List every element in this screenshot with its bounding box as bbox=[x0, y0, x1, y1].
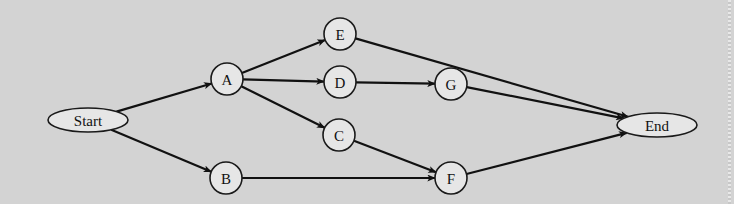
node-label-end: End bbox=[645, 118, 670, 134]
edge-f-to-end bbox=[466, 133, 626, 174]
node-b: B bbox=[210, 162, 242, 194]
edge-c-to-f bbox=[354, 141, 436, 173]
node-label-c: C bbox=[334, 128, 344, 144]
page-edge-divider bbox=[728, 0, 731, 204]
node-label-d: D bbox=[335, 75, 346, 91]
edge-a-to-d bbox=[243, 79, 324, 81]
node-c: C bbox=[323, 119, 355, 151]
node-d: D bbox=[324, 66, 356, 98]
node-label-start: Start bbox=[74, 113, 103, 129]
diagram-canvas: StartABEDCGFEnd bbox=[0, 0, 734, 204]
node-a: A bbox=[211, 63, 243, 95]
edges-layer bbox=[111, 38, 628, 178]
edge-d-to-g bbox=[356, 82, 435, 83]
edge-e-to-end bbox=[355, 38, 628, 116]
node-f: F bbox=[435, 162, 467, 194]
node-start: Start bbox=[48, 108, 128, 132]
node-label-b: B bbox=[221, 171, 231, 187]
node-label-f: F bbox=[447, 171, 455, 187]
node-label-e: E bbox=[335, 27, 344, 43]
edge-start-to-a bbox=[117, 84, 212, 112]
node-end: End bbox=[617, 113, 697, 137]
edge-start-to-b bbox=[111, 130, 211, 172]
node-label-a: A bbox=[222, 72, 233, 88]
edge-a-to-e bbox=[242, 40, 325, 73]
network-diagram: StartABEDCGFEnd bbox=[0, 0, 734, 204]
node-label-g: G bbox=[446, 77, 457, 93]
node-e: E bbox=[324, 18, 356, 50]
node-g: G bbox=[435, 68, 467, 100]
edge-a-to-c bbox=[241, 86, 324, 128]
